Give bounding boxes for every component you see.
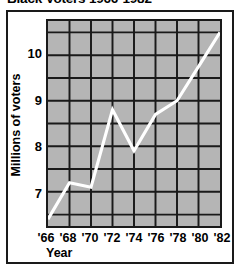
chart-figure: Black Voters 1966-1982 78910 Millions of… (0, 0, 240, 270)
x-axis-title: Year (46, 246, 72, 260)
chart-title: Black Voters 1966-1982 (7, 0, 233, 7)
plot-svg (48, 21, 220, 226)
plot-area (46, 19, 222, 228)
y-axis-tick-label: 7 (8, 187, 42, 200)
y-axis-title: Millions of voters (9, 65, 23, 185)
y-axis-tick-label: 10 (8, 47, 42, 60)
x-axis-tick-label: '82 (206, 231, 238, 245)
x-axis-tick-labels: '66'68'70'72'74'76'78'80'82 (46, 231, 226, 247)
